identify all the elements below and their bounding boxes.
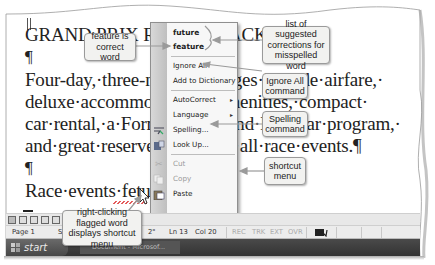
page-bottom-shadow: [4, 256, 424, 260]
print-layout-view-button[interactable]: [30, 216, 38, 224]
end-of-document-marker: [23, 210, 33, 212]
menu-item-cut[interactable]: Cut: [167, 157, 239, 171]
menu-item-label: Add to Dictionary: [173, 76, 236, 85]
menu-item-ignore-all[interactable]: Ignore All: [167, 59, 239, 73]
outline-view-button[interactable]: [41, 216, 49, 224]
scissors-icon: ✂: [153, 159, 165, 170]
callout-feature-correct-word: feature is correct word: [84, 33, 136, 61]
submenu-arrow-icon: ▸: [230, 93, 233, 107]
menu-item-copy[interactable]: Copy: [167, 172, 239, 186]
menu-item-label: Paste: [173, 189, 192, 198]
menu-item-label: Look Up...: [173, 140, 209, 149]
menu-item-label: Language: [173, 110, 208, 119]
callout-right-click-shortcut-menu: right-clicking flagged word displays sho…: [62, 210, 142, 246]
status-divider: [336, 227, 337, 238]
status-column: Col 20: [195, 228, 217, 236]
spelling-status-book-icon[interactable]: [314, 228, 328, 237]
status-rec[interactable]: REC: [232, 228, 246, 236]
menu-item-look-up[interactable]: Look Up...: [167, 138, 239, 152]
status-divider: [361, 227, 362, 238]
status-ovr[interactable]: OVR: [288, 228, 303, 236]
submenu-arrow-icon: ▸: [230, 108, 233, 122]
start-label: start: [24, 242, 47, 253]
paragraph-mark: ¶: [25, 157, 33, 179]
menu-item-label: Copy: [173, 174, 191, 183]
menu-item-language[interactable]: Language ▸: [167, 108, 239, 122]
status-line: Ln 13: [169, 228, 188, 236]
menu-item-label: Ignore All: [173, 61, 207, 70]
copy-icon: [153, 174, 165, 185]
status-divider: [226, 227, 227, 238]
status-at: 2": [148, 228, 155, 236]
menu-item-spelling[interactable]: Spelling...: [167, 123, 239, 137]
spelling-icon: [153, 125, 165, 136]
mouse-pointer-icon: [139, 188, 149, 206]
menu-item-label: Cut: [173, 159, 185, 168]
reading-layout-view-button[interactable]: [52, 216, 60, 224]
status-divider: [306, 227, 307, 238]
status-ext[interactable]: EXT: [270, 228, 283, 236]
suggestion-feature[interactable]: feature: [167, 40, 239, 54]
menu-separator: [171, 154, 235, 155]
menu-item-label: Spelling...: [173, 125, 209, 134]
menu-separator: [171, 90, 235, 91]
callout-ignore-all-command: Ignore All command: [262, 73, 308, 99]
spelling-shortcut-menu: future feature Ignore All Add to Diction…: [150, 22, 238, 218]
status-trk[interactable]: TRK: [252, 228, 265, 236]
normal-view-button[interactable]: [8, 216, 16, 224]
menu-icon-gutter: [151, 23, 167, 217]
windows-flag-icon: [11, 243, 20, 252]
paragraph-mark: ¶: [25, 46, 33, 68]
menu-item-label: AutoCorrect: [173, 95, 216, 104]
web-layout-view-button[interactable]: [19, 216, 27, 224]
clipboard-icon: [153, 189, 165, 200]
callout-spelling-command: Spelling command: [262, 111, 308, 137]
suggestion-future[interactable]: future: [167, 26, 239, 40]
callout-shortcut-menu: shortcut menu: [264, 157, 306, 185]
menu-item-add-to-dictionary[interactable]: Add to Dictionary: [167, 74, 239, 88]
start-button[interactable]: start: [6, 239, 68, 256]
status-divider: [381, 227, 382, 238]
callout-suggested-corrections: list of suggested corrections for misspe…: [262, 26, 330, 64]
menu-item-autocorrect[interactable]: AutoCorrect ▸: [167, 93, 239, 107]
research-book-icon: [153, 140, 165, 151]
status-page: Page 1: [12, 228, 35, 236]
menu-item-paste[interactable]: Paste: [167, 187, 239, 201]
menu-separator: [171, 56, 235, 57]
